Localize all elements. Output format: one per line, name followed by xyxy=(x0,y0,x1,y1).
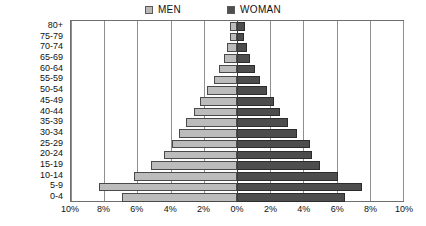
bar-men xyxy=(194,108,237,117)
bar-woman xyxy=(237,161,320,170)
y-axis-tick-label: 50-54 xyxy=(0,85,66,94)
bar-men xyxy=(214,76,237,85)
bar-woman xyxy=(237,108,280,117)
legend-label-woman: WOMAN xyxy=(240,5,281,15)
bar-men xyxy=(200,97,237,106)
y-axis-tick-label: 45-49 xyxy=(0,96,66,105)
y-axis-tick-label: 0-4 xyxy=(0,192,66,201)
y-axis-tick-label: 10-14 xyxy=(0,171,66,180)
x-axis-tick-label: 6% xyxy=(331,205,344,214)
y-axis-tick-label: 60-64 xyxy=(0,64,66,73)
bar-men xyxy=(122,193,237,202)
y-axis-labels: 80+75-7970-7465-6960-6455-5950-5445-4940… xyxy=(0,20,66,202)
chart-legend: MEN WOMAN xyxy=(0,3,426,17)
bar-woman xyxy=(237,76,260,85)
bar-woman xyxy=(237,65,255,74)
population-pyramid-chart: MEN WOMAN 80+75-7970-7465-6960-6455-5950… xyxy=(0,0,426,226)
bar-men xyxy=(134,172,237,181)
bar-men xyxy=(186,118,237,127)
bar-men xyxy=(219,65,237,74)
bar-men xyxy=(224,54,237,63)
y-axis-tick-label: 30-34 xyxy=(0,128,66,137)
x-axis-tick-label: 8% xyxy=(97,205,110,214)
y-axis-tick-label: 70-74 xyxy=(0,42,66,51)
x-axis-tick-label: 6% xyxy=(130,205,143,214)
bar-woman xyxy=(237,97,274,106)
x-axis-tick-label: 4% xyxy=(297,205,310,214)
bar-woman xyxy=(237,54,250,63)
bar-woman xyxy=(237,151,312,160)
bar-woman xyxy=(237,193,345,202)
y-axis-tick-label: 15-19 xyxy=(0,160,66,169)
x-axis-tick-label: 10% xyxy=(395,205,413,214)
bar-woman xyxy=(237,118,288,127)
bar-men xyxy=(179,129,237,138)
y-axis-tick-label: 65-69 xyxy=(0,53,66,62)
bar-men xyxy=(207,86,237,95)
legend-item-woman: WOMAN xyxy=(227,5,281,15)
y-axis-tick-label: 75-79 xyxy=(0,32,66,41)
x-axis-tick-label: 0% xyxy=(230,205,243,214)
bar-woman xyxy=(237,172,338,181)
legend-item-men: MEN xyxy=(145,5,181,15)
x-axis-tick-label: 4% xyxy=(164,205,177,214)
y-axis-tick-label: 25-29 xyxy=(0,139,66,148)
bar-men xyxy=(227,43,237,52)
y-axis-tick-label: 5-9 xyxy=(0,181,66,190)
y-axis-tick-label: 40-44 xyxy=(0,107,66,116)
bar-men xyxy=(230,33,237,42)
plot-area xyxy=(70,20,404,202)
bar-men xyxy=(151,161,237,170)
bar-woman xyxy=(237,183,362,192)
y-axis-tick-label: 35-39 xyxy=(0,117,66,126)
bar-men xyxy=(164,151,237,160)
bar-woman xyxy=(237,140,310,149)
bar-woman xyxy=(237,22,245,31)
y-axis-tick-label: 80+ xyxy=(0,21,66,30)
x-axis-tick-label: 2% xyxy=(264,205,277,214)
x-axis-tick-label: 2% xyxy=(197,205,210,214)
x-axis-tick-label: 10% xyxy=(61,205,79,214)
bar-men xyxy=(172,140,237,149)
bar-woman xyxy=(237,43,247,52)
bar-men xyxy=(99,183,237,192)
legend-swatch-woman-icon xyxy=(227,6,235,14)
axis-center-line xyxy=(237,21,238,201)
x-axis-labels: 10%8%6%4%2%0%2%4%6%8%10% xyxy=(70,205,404,219)
bar-woman xyxy=(237,129,297,138)
legend-swatch-men-icon xyxy=(145,6,153,14)
gridline xyxy=(403,21,404,201)
legend-label-men: MEN xyxy=(158,5,181,15)
y-axis-tick-label: 55-59 xyxy=(0,74,66,83)
y-axis-tick-label: 20-24 xyxy=(0,149,66,158)
bar-men xyxy=(230,22,237,31)
bar-woman xyxy=(237,86,267,95)
x-axis-tick-label: 8% xyxy=(364,205,377,214)
